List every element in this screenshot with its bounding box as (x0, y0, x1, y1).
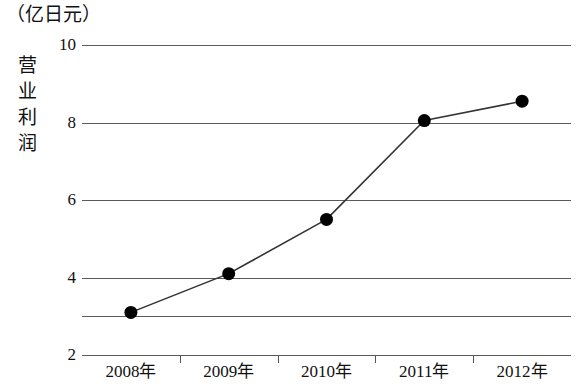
gridline (82, 355, 571, 356)
x-axis-tick-label: 2008年 (105, 360, 156, 383)
y-axis-tick-label: 2 (40, 346, 76, 363)
series-line (131, 101, 522, 312)
data-point-marker (418, 114, 431, 127)
data-series-layer (82, 45, 571, 355)
operating-profit-line-chart: （亿日元） 营 业 利 润 246810 2008年2009年2010年2011… (0, 0, 577, 386)
plot-area (82, 45, 571, 355)
y-axis-tick-label: 6 (40, 191, 76, 208)
y-axis-tick-label: 4 (40, 269, 76, 286)
x-axis-tick-labels: 2008年2009年2010年2011年2012年 (82, 360, 571, 386)
x-axis-tick-label: 2012年 (497, 360, 548, 383)
x-axis-tick-label: 2011年 (399, 360, 449, 383)
data-point-marker (320, 213, 333, 226)
data-point-marker (124, 306, 137, 319)
y-axis-tick-label: 8 (40, 114, 76, 131)
data-point-marker (222, 267, 235, 280)
x-axis-tick-label: 2010年 (301, 360, 352, 383)
y-axis-tick-label: 10 (40, 36, 76, 53)
data-point-marker (516, 95, 529, 108)
x-axis-tick-label: 2009年 (203, 360, 254, 383)
